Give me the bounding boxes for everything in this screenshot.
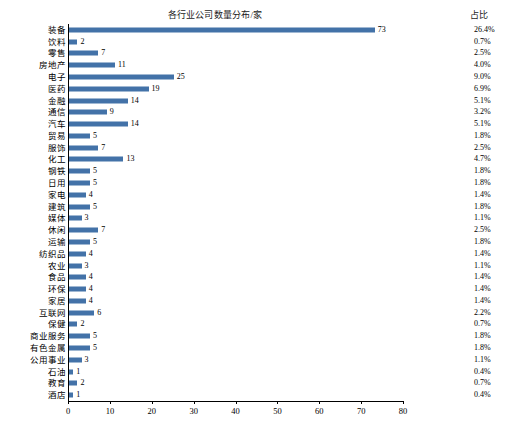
bar — [69, 157, 123, 162]
bar-row: 商业服务5 — [69, 330, 403, 342]
bar — [69, 275, 86, 280]
bar-row: 汽车14 — [69, 118, 403, 130]
x-tick-label: 20 — [148, 406, 157, 416]
bar — [69, 204, 90, 209]
x-tick — [194, 401, 195, 404]
percent-value: 1.8% — [474, 132, 491, 140]
bar — [69, 98, 128, 103]
bar-row: 医药19 — [69, 83, 403, 95]
category-label: 零售 — [48, 49, 66, 58]
bar — [69, 345, 90, 350]
bar-value-label: 14 — [131, 120, 139, 128]
percent-value: 2.5% — [474, 226, 491, 234]
category-label: 公用事业 — [30, 356, 66, 365]
bar-value-label: 1 — [76, 368, 80, 376]
percent-value: 0.7% — [474, 320, 491, 328]
bar-value-label: 73 — [378, 26, 386, 34]
bar — [69, 86, 149, 91]
bar-row: 日用5 — [69, 177, 403, 189]
bar-row: 教育2 — [69, 377, 403, 389]
bar-value-label: 11 — [118, 61, 126, 69]
bar — [69, 239, 90, 244]
bar-row: 环保4 — [69, 283, 403, 295]
percent-column-header: 占比 — [470, 8, 488, 21]
x-tick-label: 10 — [106, 406, 115, 416]
category-label: 服饰 — [48, 143, 66, 152]
bar-value-label: 4 — [89, 250, 93, 258]
bar-value-label: 1 — [76, 391, 80, 399]
bar — [69, 298, 86, 303]
category-label: 酒店 — [48, 391, 66, 400]
percent-value: 3.2% — [474, 108, 491, 116]
percent-value: 0.4% — [474, 391, 491, 399]
bar-value-label: 4 — [89, 273, 93, 281]
percent-value: 1.1% — [474, 356, 491, 364]
bar-row: 贸易5 — [69, 130, 403, 142]
x-tick-label: 70 — [357, 406, 366, 416]
bar-value-label: 5 — [93, 167, 97, 175]
bar-value-label: 5 — [93, 332, 97, 340]
x-tick-label: 50 — [273, 406, 282, 416]
category-label: 运输 — [48, 238, 66, 247]
percent-value: 5.1% — [474, 97, 491, 105]
percent-value: 0.7% — [474, 379, 491, 387]
bar-value-label: 7 — [101, 144, 105, 152]
x-tick — [152, 401, 153, 404]
category-label: 电子 — [48, 73, 66, 82]
category-label: 日用 — [48, 179, 66, 188]
category-label: 教育 — [48, 379, 66, 388]
bar — [69, 263, 82, 268]
percent-value: 1.8% — [474, 344, 491, 352]
bar-value-label: 4 — [89, 191, 93, 199]
x-tick — [110, 401, 111, 404]
bar-row: 建筑5 — [69, 201, 403, 213]
bar — [69, 310, 94, 315]
category-label: 保健 — [48, 320, 66, 329]
bar — [69, 27, 375, 32]
bar-row: 家电4 — [69, 189, 403, 201]
bar — [69, 63, 115, 68]
bar-row: 钢铁5 — [69, 165, 403, 177]
bar — [69, 251, 86, 256]
category-label: 互联网 — [39, 308, 66, 317]
percent-value: 2.5% — [474, 49, 491, 57]
x-tick-label: 40 — [231, 406, 240, 416]
bar-row: 有色金属5 — [69, 342, 403, 354]
bar-value-label: 4 — [89, 297, 93, 305]
bar — [69, 369, 73, 374]
bar-row: 石油1 — [69, 366, 403, 378]
percent-value: 26.4% — [474, 26, 495, 34]
bar-value-label: 7 — [101, 226, 105, 234]
bar — [69, 381, 77, 386]
bar-row: 金融14 — [69, 95, 403, 107]
bar-row: 食品4 — [69, 271, 403, 283]
bar-row: 服饰7 — [69, 142, 403, 154]
bar — [69, 39, 77, 44]
bar-row: 休闲7 — [69, 224, 403, 236]
bar-row: 纺织品4 — [69, 248, 403, 260]
x-tick-label: 60 — [315, 406, 324, 416]
bar — [69, 51, 98, 56]
bar — [69, 334, 90, 339]
bar-value-label: 9 — [110, 108, 114, 116]
percent-value: 1.1% — [474, 214, 491, 222]
bar-value-label: 6 — [97, 309, 101, 317]
percent-value: 2.2% — [474, 309, 491, 317]
bar-value-label: 3 — [85, 262, 89, 270]
category-label: 医药 — [48, 85, 66, 94]
category-label: 环保 — [48, 285, 66, 294]
plot-area: 装备73饮料2零售7房地产11电子25医药19金融14通信9汽车14贸易5服饰7… — [68, 24, 403, 401]
category-label: 房地产 — [39, 61, 66, 70]
category-label: 金融 — [48, 96, 66, 105]
bar — [69, 145, 98, 150]
percent-value: 1.8% — [474, 332, 491, 340]
bar — [69, 75, 174, 80]
bar-row: 保健2 — [69, 319, 403, 331]
category-label: 家居 — [48, 297, 66, 306]
bar — [69, 322, 77, 327]
bar-row: 运输5 — [69, 236, 403, 248]
bar-value-label: 2 — [80, 379, 84, 387]
chart-page: 各行业公司数量分布/家 占比 装备73饮料2零售7房地产11电子25医药19金融… — [0, 0, 519, 428]
bar-value-label: 13 — [126, 155, 134, 163]
category-label: 食品 — [48, 273, 66, 282]
